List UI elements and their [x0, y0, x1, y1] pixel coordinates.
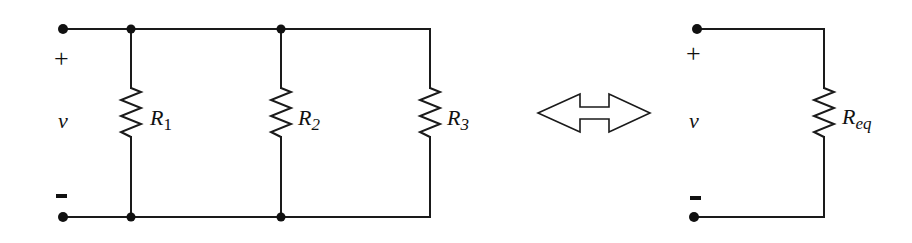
junction-node-icon — [127, 213, 136, 222]
resistor-req-icon — [814, 88, 834, 137]
terminal-bottom-node-icon — [689, 212, 699, 222]
plus-sign-label: + — [686, 39, 701, 68]
terminal-bottom-node-icon — [58, 212, 68, 222]
plus-sign-label: + — [54, 44, 69, 73]
minus-sign-icon — [690, 196, 701, 200]
resistor-r2-icon — [271, 88, 291, 137]
junction-node-icon — [127, 25, 136, 34]
terminal-top-node-icon — [692, 24, 702, 34]
resistor-r3-icon — [420, 88, 440, 137]
resistor-r1-icon — [121, 88, 141, 137]
r2-label: R2 — [297, 105, 320, 134]
junction-node-icon — [277, 25, 286, 34]
r3-label: R3 — [446, 105, 469, 134]
minus-sign-icon — [56, 194, 67, 198]
r1-label: R1 — [149, 105, 172, 134]
left-circuit: + v R1 R2 R3 — [54, 24, 469, 222]
parallel-resistor-diagram: + v R1 R2 R3 + v Req — [0, 0, 912, 243]
voltage-label: v — [689, 108, 699, 133]
junction-node-icon — [277, 213, 286, 222]
right-circuit: + v Req — [686, 24, 872, 222]
req-label: Req — [841, 104, 872, 133]
double-arrow-icon — [538, 94, 650, 132]
voltage-label: v — [58, 108, 68, 133]
circuit-canvas: + v R1 R2 R3 + v Req — [0, 0, 912, 243]
terminal-top-node-icon — [58, 24, 68, 34]
